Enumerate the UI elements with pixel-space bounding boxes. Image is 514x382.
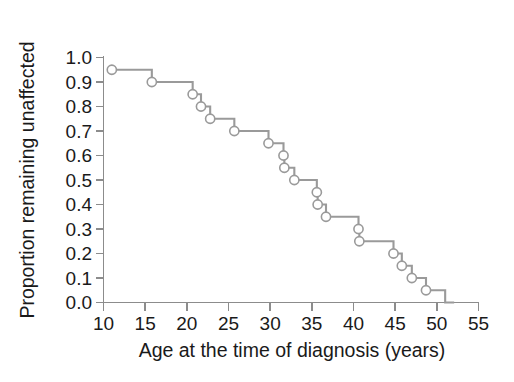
data-point-marker — [279, 151, 288, 160]
x-tick-label: 55 — [468, 313, 489, 334]
y-tick-label: 0.6 — [66, 145, 92, 166]
y-axis-title-text: Proportion remaining unaffected — [16, 41, 38, 318]
data-point-marker — [280, 163, 289, 172]
chart-figure: Proportion remaining unaffected Age at t… — [0, 0, 514, 382]
data-point-marker — [230, 126, 239, 135]
y-tick-label: 0.8 — [66, 96, 92, 117]
y-tick-label: 0.3 — [66, 219, 92, 240]
x-axis-title: Age at the time of diagnosis (years) — [139, 339, 446, 361]
data-point-marker — [321, 212, 330, 221]
data-point-marker — [421, 286, 430, 295]
y-tick-label: 0.2 — [66, 243, 92, 264]
x-tick-label: 30 — [260, 313, 281, 334]
data-point-marker — [107, 65, 116, 74]
data-point-marker — [196, 102, 205, 111]
data-point-marker — [397, 261, 406, 270]
data-point-marker — [264, 139, 273, 148]
data-point-marker — [206, 114, 215, 123]
x-tick-label: 20 — [176, 313, 197, 334]
data-point-marker — [355, 237, 364, 246]
x-axis-title-text: Age at the time of diagnosis (years) — [139, 339, 446, 361]
survival-curve-chart: Proportion remaining unaffected Age at t… — [0, 0, 514, 382]
y-tick-label: 0.9 — [66, 72, 92, 93]
y-tick-label: 0.4 — [66, 194, 93, 215]
x-tick-label: 45 — [385, 313, 406, 334]
y-tick-label: 0.0 — [66, 292, 92, 313]
data-point-marker — [313, 200, 322, 209]
data-point-marker — [290, 175, 299, 184]
y-tick-label: 1.0 — [66, 47, 92, 68]
y-tick-label: 0.5 — [66, 170, 92, 191]
data-point-marker — [354, 224, 363, 233]
x-tick-label: 50 — [426, 313, 447, 334]
x-tick-label: 25 — [218, 313, 239, 334]
data-point-marker — [147, 77, 156, 86]
x-tick-label: 35 — [301, 313, 322, 334]
data-point-marker — [188, 90, 197, 99]
x-tick-label: 40 — [343, 313, 364, 334]
data-point-marker — [312, 188, 321, 197]
y-tick-label: 0.7 — [66, 121, 92, 142]
y-axis-ticks: 0.00.10.20.30.40.50.60.70.80.91.0 — [66, 47, 104, 313]
y-axis-title: Proportion remaining unaffected — [16, 41, 38, 318]
x-axis-ticks: 10152025303540455055 — [93, 303, 489, 335]
data-point-markers — [107, 65, 430, 295]
x-tick-label: 10 — [93, 313, 114, 334]
data-point-marker — [407, 273, 416, 282]
x-tick-label: 15 — [135, 313, 156, 334]
y-tick-label: 0.1 — [66, 268, 92, 289]
data-point-marker — [389, 249, 398, 258]
